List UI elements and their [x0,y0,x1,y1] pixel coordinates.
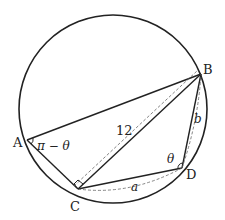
label-D: D [186,167,196,182]
label-C: C [70,199,80,214]
circumcircle [19,15,207,203]
label-angle-theta: θ [167,152,175,166]
label-side-a: a [131,180,138,194]
label-B: B [203,62,213,77]
geometry-figure: B A C D 12 π − θ θ b a [0,0,225,220]
label-A: A [12,135,23,150]
circle-diagram: B A C D 12 π − θ θ b a [0,0,225,220]
label-length-12: 12 [116,123,133,138]
segment-AB [27,74,201,140]
label-angle-pi-minus-theta: π − θ [36,139,71,153]
label-side-b: b [194,112,202,126]
